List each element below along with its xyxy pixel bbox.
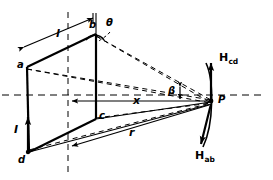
loop-edge-ab — [27, 34, 96, 67]
edge-d-to-p — [29, 104, 211, 152]
dimension-label-r: r — [129, 127, 134, 138]
current-label-i: I — [14, 124, 18, 135]
dimension-label-x: x — [133, 95, 140, 106]
vector-label-h-cd: Hcd — [219, 52, 238, 63]
vector-h-cd-base: H — [219, 51, 228, 64]
point-label-p: P — [218, 95, 225, 105]
ray-d-to-p — [29, 103, 211, 150]
vertex-markers — [26, 150, 30, 154]
angle-label-beta: β — [168, 86, 175, 96]
vertex-label-c: c — [99, 111, 105, 121]
edge-c-to-p — [96, 102, 211, 119]
angle-label-theta: θ — [106, 18, 113, 28]
vector-h-cd-sub: cd — [228, 57, 238, 66]
vector-label-h-ab: Hab — [195, 150, 215, 161]
ray-a-to-p-lower — [27, 69, 211, 103]
dimension-r — [72, 105, 209, 146]
current-loop-polygon — [27, 34, 96, 152]
point-p-marker — [209, 99, 214, 104]
vertex-label-b: b — [89, 20, 96, 30]
vector-h-ab-sub: ab — [204, 155, 214, 164]
vertex-label-d: d — [18, 155, 25, 165]
dimension-label-l: l — [56, 28, 60, 39]
figure-canvas: a b c d P l x r θ β I Hcd Hab — [0, 0, 273, 180]
angle-theta-arc — [86, 32, 110, 41]
vertex-label-a: a — [17, 60, 24, 70]
vertex-dot-d — [26, 150, 30, 154]
ray-b-to-p-lower — [96, 36, 211, 103]
vector-h-ab-base: H — [195, 149, 204, 162]
diagram-svg — [0, 0, 273, 180]
